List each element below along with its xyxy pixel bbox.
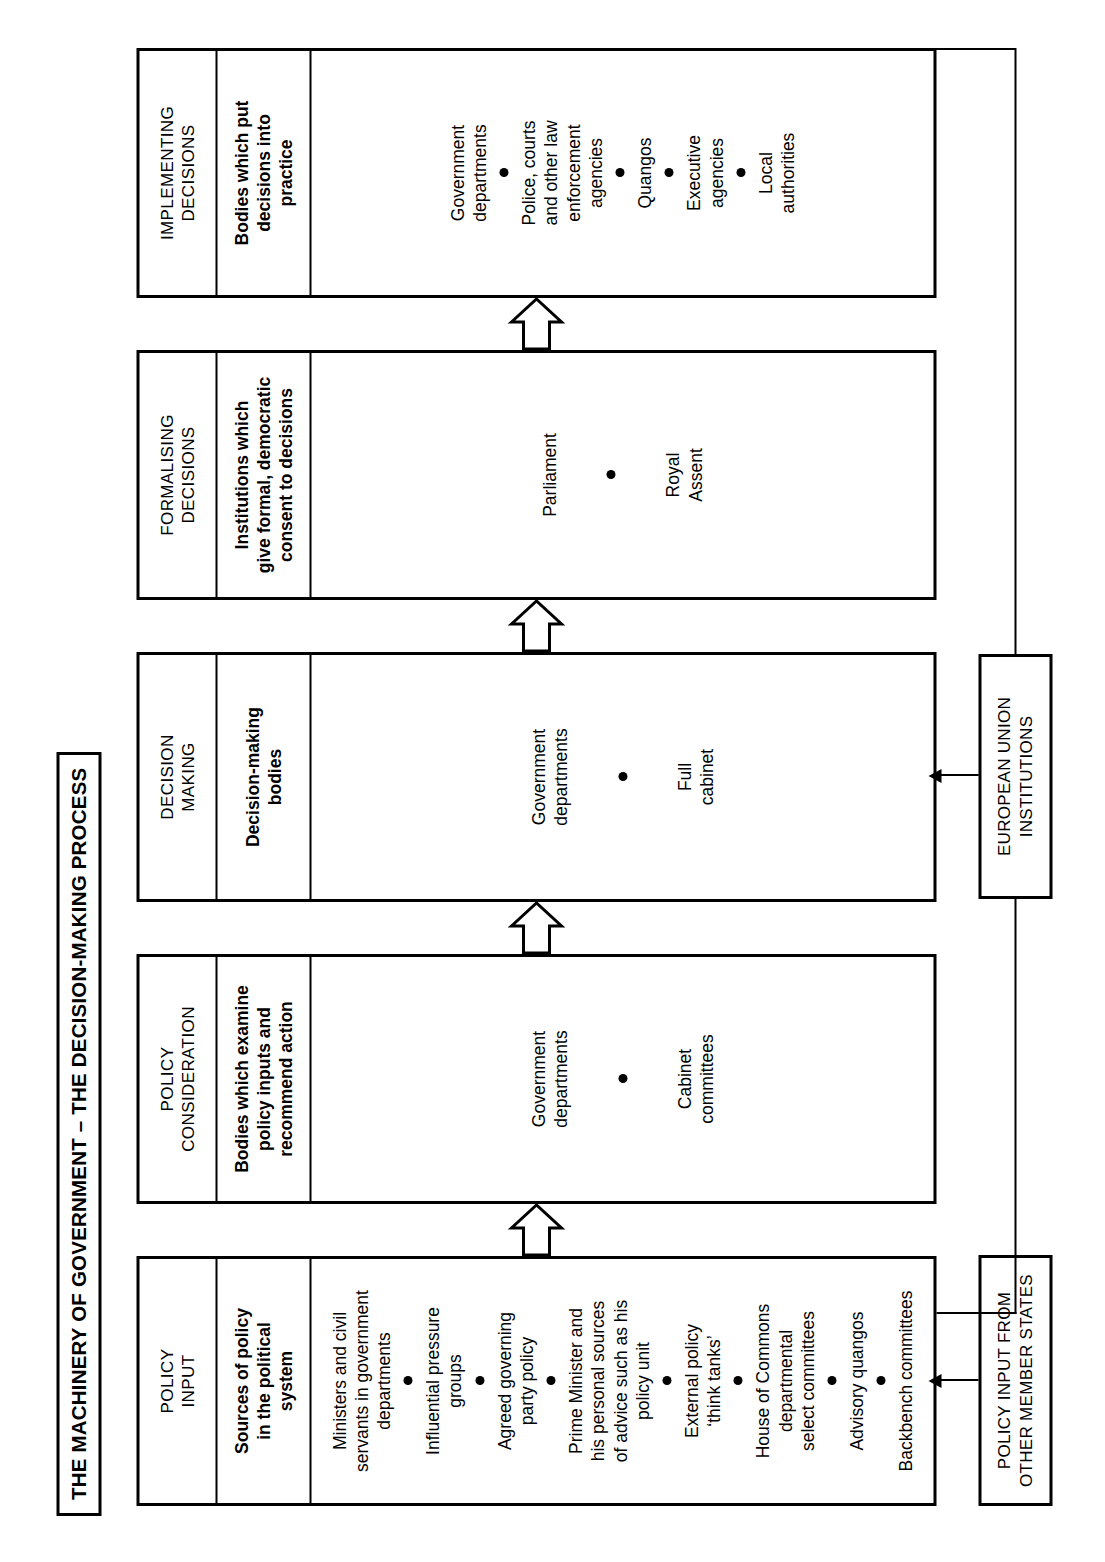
column-decision-making: DECISION MAKING Decision-making bodies G… (136, 652, 936, 902)
list-item: Backbench committees (894, 1291, 916, 1472)
column-subheader: Bodies which put decisions into practice (217, 51, 311, 295)
bullet-separator-icon (546, 1377, 555, 1386)
column-header: POLICY CONSIDERATION (139, 957, 217, 1201)
flow-arrow-icon (505, 1204, 567, 1256)
connector-line (936, 1312, 1016, 1314)
list-item: Ministers and civil servants in governme… (328, 1290, 395, 1472)
column-header: IMPLEMENTING DECISIONS (139, 51, 217, 295)
column-subheader: Bodies which examine policy inputs and r… (217, 957, 311, 1201)
column-policy-input: POLICY INPUT Sources of policy in the po… (136, 1256, 936, 1506)
connector-line (1014, 48, 1016, 654)
bullet-separator-icon (664, 169, 673, 178)
arrow-head-icon (928, 769, 941, 783)
bullet-separator-icon (733, 1377, 742, 1386)
list-item: Police, courts and other law enforcement… (517, 120, 606, 225)
column-items: Government departments Police, courts an… (311, 51, 933, 295)
column-header: POLICY INPUT (139, 1259, 217, 1503)
column-policy-consideration: POLICY CONSIDERATION Bodies which examin… (136, 954, 936, 1204)
column-items: Ministers and civil servants in governme… (311, 1259, 933, 1503)
bullet-separator-icon (618, 773, 627, 782)
column-subheader: Decision-making bodies (217, 655, 311, 899)
bullet-separator-icon (606, 471, 615, 480)
connector-line (1014, 899, 1016, 1314)
column-implementing-decisions: IMPLEMENTING DECISIONS Bodies which put … (136, 48, 936, 298)
list-item: Government departments (446, 124, 490, 221)
list-item: Government departments (527, 728, 571, 825)
column-formalising-decisions: FORMALISING DECISIONS Institutions which… (136, 350, 936, 600)
list-item: Agreed governing party policy (493, 1312, 537, 1450)
list-item: Parliament (538, 433, 560, 517)
list-item: Prime Minister and his personal sources … (564, 1300, 653, 1462)
bullet-separator-icon (827, 1377, 836, 1386)
list-item: Full cabinet (673, 749, 717, 805)
list-item: External policy ‘think tanks’ (680, 1324, 724, 1438)
list-item: House of Commons departmental select com… (751, 1304, 818, 1459)
bullet-separator-icon (736, 169, 745, 178)
connector-line (940, 774, 978, 776)
list-item: Advisory quangos (845, 1311, 867, 1450)
list-item: Cabinet committees (673, 1034, 717, 1123)
column-subheader: Institutions which give formal, democrat… (217, 353, 311, 597)
bullet-separator-icon (499, 169, 508, 178)
bullet-separator-icon (662, 1377, 671, 1386)
connector-line (940, 1379, 978, 1381)
list-item: Government departments (527, 1030, 571, 1127)
list-item: Royal Assent (661, 448, 705, 502)
bullet-separator-icon (876, 1377, 885, 1386)
list-item: Local authorities (754, 133, 798, 214)
flow-arrow-icon (505, 298, 567, 350)
arrow-head-icon (928, 1374, 941, 1388)
bullet-separator-icon (618, 1075, 627, 1084)
flow-arrow-icon (505, 600, 567, 652)
list-item: Executive agencies (682, 135, 726, 211)
european-union-institutions-box: EUROPEAN UNION INSTITUTIONS (978, 654, 1052, 899)
bullet-separator-icon (615, 169, 624, 178)
bullet-separator-icon (475, 1377, 484, 1386)
list-item: Quangos (633, 137, 655, 208)
column-items: Government departments Cabinet committee… (311, 957, 933, 1201)
diagram-title: THE MACHINERY OF GOVERNMENT – THE DECISI… (56, 752, 101, 1516)
flow-arrow-icon (505, 902, 567, 954)
column-subheader: Sources of policy in the political syste… (217, 1259, 311, 1503)
connector-line (320, 48, 1015, 50)
column-items: Government departments Full cabinet (311, 655, 933, 899)
column-header: FORMALISING DECISIONS (139, 353, 217, 597)
bullet-separator-icon (403, 1377, 412, 1386)
column-items: Parliament Royal Assent (311, 353, 933, 597)
column-header: DECISION MAKING (139, 655, 217, 899)
diagram-canvas: THE MACHINERY OF GOVERNMENT – THE DECISI… (0, 0, 1105, 1562)
list-item: Influential pressure groups (421, 1307, 465, 1455)
